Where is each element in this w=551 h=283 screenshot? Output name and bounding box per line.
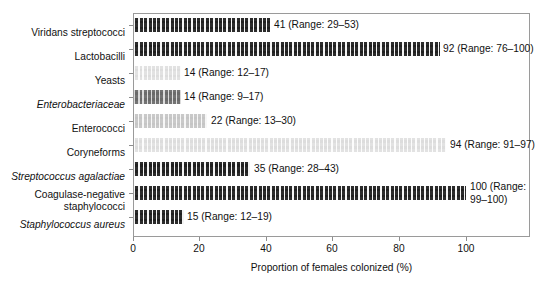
bar-value-enterococci: 22 (Range: 13–30) <box>211 115 296 127</box>
x-tick-80 <box>399 237 400 241</box>
bar-enterobacteriaceae <box>134 90 181 104</box>
bar-value-yeasts: 14 (Range: 12–17) <box>184 67 269 79</box>
x-tick-100 <box>466 237 467 241</box>
category-label-coagulase-negative-staphylococci: Coagulase-negative staphylococci <box>0 189 125 212</box>
category-label-enterococci: Enterococci <box>0 123 125 135</box>
category-axis-labels: Viridans streptococci Lactobacilli Yeast… <box>0 13 129 237</box>
bar-coagulase-negative-staphylococci <box>134 186 466 200</box>
bar-row-coryneforms[interactable]: 94 (Range: 91–97) <box>134 138 529 152</box>
bar-lactobacilli <box>134 42 440 56</box>
x-axis-title: Proportion of females colonized (%) <box>133 262 530 273</box>
x-tick-label-20: 20 <box>179 243 219 255</box>
x-tick-0 <box>133 237 134 241</box>
bar-value-lactobacilli: 92 (Range: 76–100) <box>443 43 534 55</box>
x-tick-20 <box>199 237 200 241</box>
bar-value-enterobacteriaceae: 14 (Range: 9–17) <box>184 91 263 103</box>
x-tick-label-100: 100 <box>446 243 486 255</box>
bars-layer: 41 (Range: 29–53) 92 (Range: 76–100) 14 … <box>134 14 529 236</box>
bar-viridans-streptococci <box>134 18 270 32</box>
x-tick-label-60: 60 <box>312 243 352 255</box>
bar-value-coryneforms: 94 (Range: 91–97) <box>450 139 535 151</box>
bar-value-coagulase-negative-staphylococci: 100 (Range: 99–100) <box>470 181 526 206</box>
bar-coryneforms <box>134 138 446 152</box>
x-tick-40 <box>266 237 267 241</box>
bar-streptococcus-agalactiae <box>134 162 250 176</box>
category-label-enterobacteriaceae: Enterobacteriaceae <box>0 99 125 111</box>
bar-row-staphylococcus-aureus[interactable]: 15 (Range: 12–19) <box>134 210 529 224</box>
bar-row-coagulase-negative-staphylococci[interactable]: 100 (Range: 99–100) <box>134 186 529 200</box>
category-label-viridans-streptococci: Viridans streptococci <box>0 27 125 39</box>
bar-value-staphylococcus-aureus: 15 (Range: 12–19) <box>187 211 272 223</box>
bar-yeasts <box>134 66 181 80</box>
bar-chart-figure: Viridans streptococci Lactobacilli Yeast… <box>0 0 551 283</box>
category-label-yeasts: Yeasts <box>0 75 125 87</box>
category-label-staphylococcus-aureus: Staphylococcus aureus <box>0 219 125 231</box>
x-tick-label-0: 0 <box>113 243 153 255</box>
bar-value-viridans-streptococci: 41 (Range: 29–53) <box>274 19 359 31</box>
category-label-streptococcus-agalactiae: Streptococcus agalactiae <box>0 171 125 183</box>
bar-row-lactobacilli[interactable]: 92 (Range: 76–100) <box>134 42 529 56</box>
bar-row-enterococci[interactable]: 22 (Range: 13–30) <box>134 114 529 128</box>
x-tick-label-40: 40 <box>246 243 286 255</box>
category-label-coryneforms: Coryneforms <box>0 147 125 159</box>
bar-value-streptococcus-agalactiae: 35 (Range: 28–43) <box>254 163 339 175</box>
bar-row-viridans-streptococci[interactable]: 41 (Range: 29–53) <box>134 18 529 32</box>
bar-enterococci <box>134 114 207 128</box>
bar-row-yeasts[interactable]: 14 (Range: 12–17) <box>134 66 529 80</box>
bar-row-streptococcus-agalactiae[interactable]: 35 (Range: 28–43) <box>134 162 529 176</box>
x-tick-label-80: 80 <box>379 243 419 255</box>
bar-staphylococcus-aureus <box>134 210 184 224</box>
bar-row-enterobacteriaceae[interactable]: 14 (Range: 9–17) <box>134 90 529 104</box>
x-tick-60 <box>332 237 333 241</box>
category-label-lactobacilli: Lactobacilli <box>0 51 125 63</box>
